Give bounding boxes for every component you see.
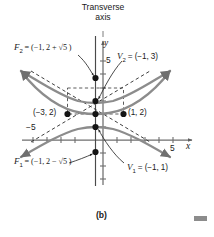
leader-vertex-2 <box>99 61 123 99</box>
center-point <box>92 111 98 117</box>
focus-2-value: = (−1, 2 + √5 ) <box>23 43 72 52</box>
x-tick-label-minus-5: −5 <box>26 122 36 132</box>
vertex-2-label: V2 = (−1, 3) <box>117 52 158 63</box>
leader-vertex-1 <box>99 130 125 164</box>
leader-focus-1 <box>69 154 93 163</box>
figure-caption: (b) <box>96 210 107 220</box>
co-vertex-left-label: (−3, 2) <box>33 109 56 118</box>
figure-title-line2: axis <box>95 12 110 22</box>
focus-1-label: F1 = (−1, 2 − √5 ) <box>14 157 71 168</box>
figure-title-line1: Transverse <box>82 2 125 12</box>
x-axis-name: x <box>186 141 190 151</box>
y-tick-label-5: 5 <box>106 55 111 65</box>
co-vertex-left-point <box>64 111 70 117</box>
y-axis-name: y <box>104 38 108 48</box>
vertex-2-point <box>92 98 98 104</box>
focus-2-label: F2 = (−1, 2 + √5 ) <box>14 43 71 54</box>
vertex-1-value: = (−1, 1) <box>136 163 168 172</box>
vertex-1-label: V1 = (−1, 1) <box>127 163 168 174</box>
focus-1-value: = (−1, 2 − √5 ) <box>23 157 72 166</box>
vertex-2-value: = (−1, 3) <box>126 52 158 61</box>
color-swatch <box>194 216 207 221</box>
vertex-1-point <box>92 124 98 130</box>
figure-title: Transverse axis <box>61 2 145 23</box>
x-tick-label-5: 5 <box>170 143 175 153</box>
co-vertex-right-label: (1, 2) <box>128 109 147 118</box>
hyperbola-figure: Transverse axis y x 5 5 −5 F2 = (−1, 2 +… <box>0 0 214 237</box>
hyperbola-plot <box>0 0 214 237</box>
focus-2-point <box>92 75 98 81</box>
co-vertex-right-point <box>120 111 126 117</box>
asymptotes <box>31 71 150 142</box>
focus-1-point <box>92 149 98 155</box>
leader-focus-2 <box>78 55 94 76</box>
